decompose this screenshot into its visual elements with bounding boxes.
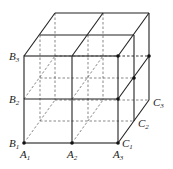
label-B3: B3	[9, 50, 20, 64]
hidden-edges	[24, 13, 149, 143]
point-A2	[70, 141, 74, 145]
label-B2: B2	[9, 93, 20, 107]
cube-diagram: B3 B2 B1 A1 A2 A3 C1 C2 C3	[0, 0, 173, 169]
point-back-right-mid	[147, 54, 151, 58]
point-B1	[22, 141, 26, 145]
label-A3: A3	[112, 148, 124, 162]
point-front-right-top	[116, 54, 120, 58]
label-C3: C3	[153, 96, 164, 110]
label-B1: B1	[9, 137, 19, 151]
point-front-right-mid	[116, 97, 120, 101]
point-A3	[116, 141, 120, 145]
point-right-mid	[132, 76, 136, 80]
label-A1: A1	[19, 148, 30, 162]
label-C1: C1	[122, 137, 133, 151]
label-A2: A2	[66, 148, 78, 162]
label-C2: C2	[138, 117, 149, 131]
